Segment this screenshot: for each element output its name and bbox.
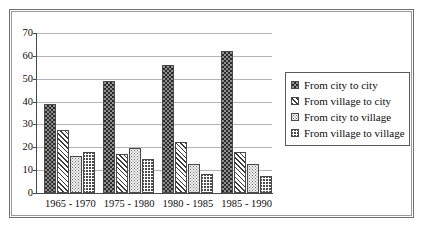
bar-group	[44, 33, 96, 193]
legend-swatch-icon	[291, 129, 299, 137]
chart-legend: From city to cityFrom village to cityFro…	[285, 72, 410, 146]
plot-area: 010203040506070 1965 - 19701975 - 198019…	[37, 33, 272, 193]
bar	[247, 164, 259, 193]
legend-item[interactable]: From village to village	[291, 125, 405, 141]
legend-label: From city to village	[304, 112, 391, 123]
bar	[175, 142, 187, 193]
bar	[129, 148, 141, 193]
bar	[234, 152, 246, 193]
y-tick-label: 70	[23, 28, 34, 38]
y-tick-label: 20	[23, 142, 34, 152]
bar	[221, 51, 233, 193]
legend-swatch-icon	[291, 81, 299, 89]
y-tick-label: 10	[23, 165, 34, 175]
bar-group	[162, 33, 214, 193]
y-tick-mark	[33, 102, 37, 103]
legend-label: From village to village	[304, 128, 405, 139]
legend-label: From city to city	[304, 80, 378, 91]
y-tick-mark	[33, 124, 37, 125]
bar	[70, 156, 82, 193]
y-tick-mark	[33, 79, 37, 80]
chart-figure: 010203040506070 1965 - 19701975 - 198019…	[0, 0, 426, 230]
x-axis-line	[36, 193, 273, 194]
legend-label: From village to city	[304, 96, 391, 107]
legend-swatch-icon	[291, 97, 299, 105]
y-tick-label: 40	[23, 97, 34, 107]
y-tick-mark	[33, 170, 37, 171]
x-tick-label: 1985 - 1990	[207, 198, 287, 210]
bar	[83, 152, 95, 193]
legend-item[interactable]: From village to city	[291, 93, 405, 109]
bar-group	[221, 33, 273, 193]
bar-group	[103, 33, 155, 193]
y-tick-label: 30	[23, 119, 34, 129]
legend-item[interactable]: From city to city	[291, 77, 405, 93]
y-tick-mark	[33, 147, 37, 148]
y-tick-label: 50	[23, 74, 34, 84]
bar	[260, 176, 272, 193]
bar	[44, 104, 56, 193]
bar	[142, 159, 154, 193]
y-tick-mark	[33, 33, 37, 34]
bar	[103, 81, 115, 193]
bar	[162, 65, 174, 193]
legend-swatch-icon	[291, 113, 299, 121]
bar	[201, 174, 213, 193]
bar	[116, 154, 128, 193]
y-tick-mark	[33, 193, 37, 194]
legend-item[interactable]: From city to village	[291, 109, 405, 125]
bar	[57, 130, 69, 193]
bar	[188, 164, 200, 193]
y-tick-mark	[33, 56, 37, 57]
y-tick-label: 60	[23, 51, 34, 61]
